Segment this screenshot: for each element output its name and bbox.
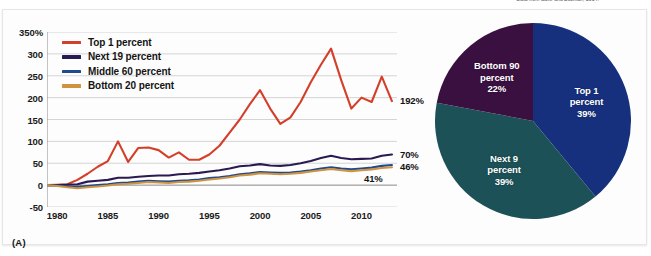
y-tick-label: 200 — [27, 92, 43, 103]
pie-chart-wrap: Top 1 percent39%Next 9 percent39%Bottom … — [433, 21, 633, 221]
panel-b-pie-chart: Top 1 percent39%Next 9 percent39%Bottom … — [415, 9, 651, 245]
pie-slice-value: 22% — [466, 83, 528, 95]
legend-swatch-icon — [62, 84, 81, 88]
series-end-label: 41% — [364, 173, 383, 184]
x-tick-label: 1985 — [97, 210, 118, 221]
figure-root: Data from Saez and Zucman, 2014. 350%300… — [0, 0, 651, 256]
legend-item-label: Bottom 20 percent — [88, 80, 174, 91]
x-tick-label: 1980 — [47, 210, 68, 221]
y-tick-label: 300 — [27, 48, 43, 59]
pie-slice-label: Top 1 percent39% — [563, 84, 610, 119]
legend-item-label: Middle 60 percent — [88, 66, 171, 77]
legend-item[interactable]: Middle 60 percent — [62, 64, 174, 79]
pie-chart-svg — [433, 21, 633, 221]
legend-item[interactable]: Next 19 percent — [62, 50, 174, 65]
source-note: Data from Saez and Zucman, 2014. — [0, 0, 651, 4]
x-tick-label: 2000 — [250, 210, 271, 221]
x-tick-label: 1990 — [148, 210, 169, 221]
pie-slice-name: Next 9 percent — [473, 153, 535, 176]
x-tick-label: 2010 — [351, 210, 372, 221]
pie-slice-name: Bottom 90 percent — [466, 60, 528, 83]
y-tick-label: 350% — [19, 27, 43, 38]
line-chart-legend: Top 1 percentNext 19 percentMiddle 60 pe… — [62, 35, 174, 93]
x-tick-label: 1995 — [199, 210, 220, 221]
panel-a-line-chart: 350%300250200150100500-50 19801985199019… — [0, 9, 415, 245]
x-tick-label: 2005 — [300, 210, 321, 221]
pie-slice-value: 39% — [473, 176, 535, 188]
legend-item[interactable]: Top 1 percent — [62, 35, 174, 50]
legend-swatch-icon — [62, 41, 81, 45]
y-tick-label: 150 — [27, 114, 43, 125]
y-axis-tick-labels: 350%300250200150100500-50 — [0, 32, 43, 207]
y-tick-label: 100 — [27, 136, 43, 147]
legend-item-label: Top 1 percent — [88, 37, 152, 48]
y-tick-label: -50 — [30, 202, 43, 213]
x-axis-tick-labels: 1980198519901995200020052010 — [47, 210, 397, 224]
y-tick-label: 0 — [38, 180, 43, 191]
y-tick-label: 250 — [27, 70, 43, 81]
legend-item[interactable]: Bottom 20 percent — [62, 79, 174, 94]
legend-swatch-icon — [62, 70, 81, 74]
pie-slice-label: Next 9 percent39% — [473, 153, 535, 188]
legend-swatch-icon — [62, 55, 81, 59]
y-tick-label: 50 — [33, 158, 43, 169]
pie-slice-value: 39% — [563, 107, 610, 119]
legend-item-label: Next 19 percent — [88, 51, 161, 62]
pie-slice-label: Bottom 90 percent22% — [466, 60, 528, 95]
pie-slice-name: Top 1 percent — [563, 84, 610, 107]
panel-a-tag: (A) — [12, 237, 26, 248]
